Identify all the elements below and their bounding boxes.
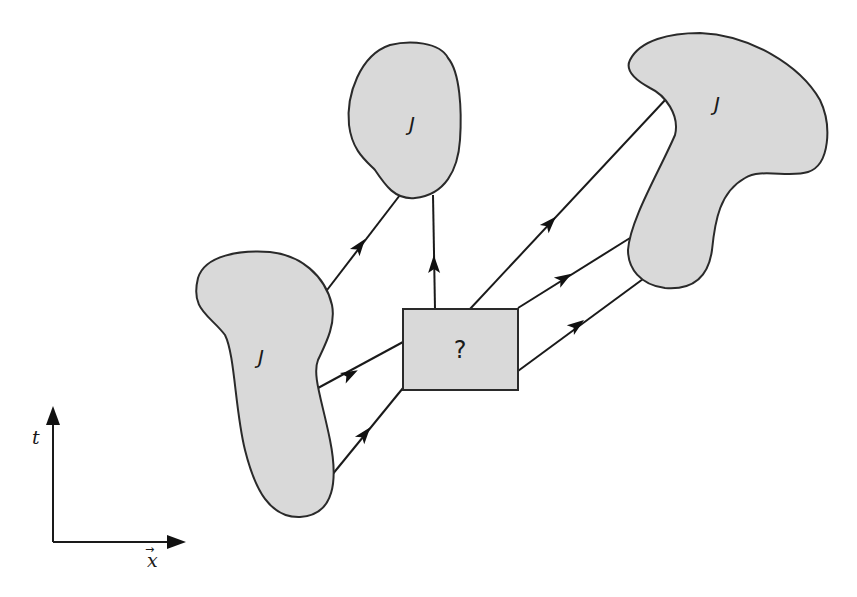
region-left: J: [196, 252, 333, 517]
region-left-shape: [196, 252, 333, 517]
unknown-interaction-box: ?: [403, 309, 518, 390]
edge-box-to-top: [433, 195, 435, 309]
arrow-icon: [340, 365, 361, 384]
center-box-label: ?: [454, 336, 467, 364]
arrow-icon: [554, 269, 575, 288]
edge-left-to-box-upper: [318, 342, 403, 388]
x-vector-arrow: →: [145, 543, 154, 556]
feynman-style-diagram: J J J ? t x →: [0, 0, 857, 597]
region-right: J: [628, 33, 827, 288]
region-right-shape: [628, 33, 827, 288]
axes: t x →: [32, 406, 186, 571]
t-axis-label: t: [32, 426, 40, 448]
region-top-shape: [349, 43, 461, 199]
x-axis-arrow-icon: [167, 535, 186, 549]
t-axis-arrow-icon: [46, 406, 60, 425]
region-top: J: [349, 43, 461, 199]
edge-box-to-right-middle: [518, 238, 630, 308]
